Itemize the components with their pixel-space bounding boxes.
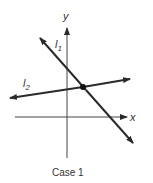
l1-label: l1 bbox=[55, 38, 62, 53]
figure-caption: Case 1 bbox=[52, 167, 84, 178]
intersection-point bbox=[80, 84, 86, 90]
coordinate-diagram: y x l1 l2 Case 1 bbox=[0, 0, 153, 183]
l2-label: l2 bbox=[23, 77, 30, 92]
x-axis-label: x bbox=[129, 111, 136, 123]
y-axis-label: y bbox=[62, 10, 70, 22]
